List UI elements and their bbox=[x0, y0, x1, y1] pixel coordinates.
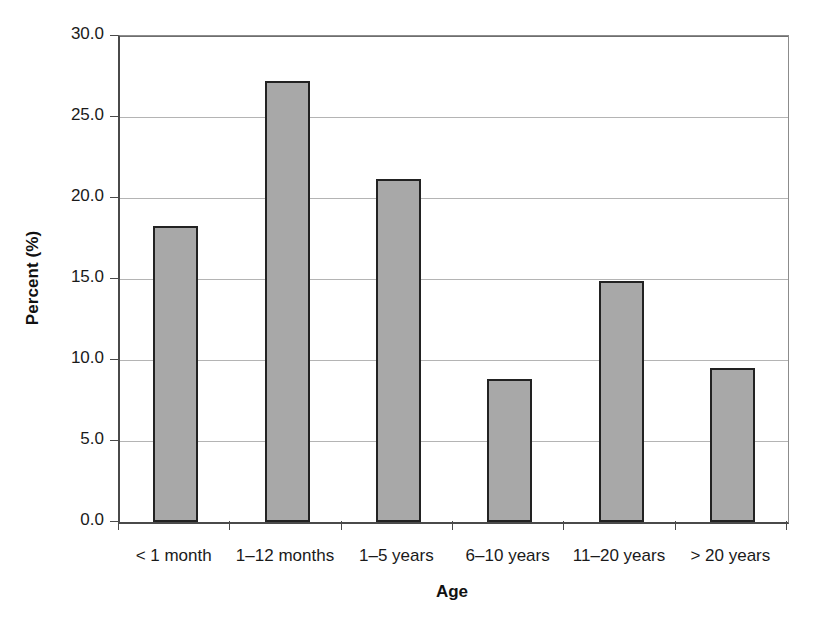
plot-area bbox=[118, 35, 789, 524]
x-axis-tick-label: < 1 month bbox=[118, 546, 229, 566]
y-axis-tick-label: 20.0 bbox=[42, 186, 104, 206]
y-axis-tick-mark bbox=[110, 116, 118, 117]
y-axis-tick-mark bbox=[110, 440, 118, 441]
x-axis-title: Age bbox=[118, 582, 786, 602]
y-axis-title: Percent (%) bbox=[22, 35, 44, 521]
x-axis-tick-mark bbox=[229, 521, 230, 530]
x-axis-tick-label: 1–12 months bbox=[229, 546, 340, 566]
x-axis-tick-mark bbox=[563, 521, 564, 530]
x-axis-tick-labels: < 1 month1–12 months1–5 years6–10 years1… bbox=[118, 546, 786, 572]
x-axis-tick-mark bbox=[675, 521, 676, 530]
y-axis-tick-mark bbox=[110, 521, 118, 522]
bar bbox=[710, 368, 755, 522]
x-axis-tick-label: 1–5 years bbox=[341, 546, 452, 566]
bar bbox=[265, 81, 310, 522]
bar bbox=[153, 226, 198, 522]
y-axis-tick-labels: 0.05.010.015.020.025.030.0 bbox=[42, 0, 104, 629]
x-axis-tick-label: 11–20 years bbox=[563, 546, 674, 566]
y-axis-tick-label: 25.0 bbox=[42, 105, 104, 125]
x-axis-tick-mark bbox=[341, 521, 342, 530]
y-axis-tick-mark bbox=[110, 35, 118, 36]
x-axis-tick-mark bbox=[786, 521, 787, 530]
x-axis-tick-label: 6–10 years bbox=[452, 546, 563, 566]
bar bbox=[487, 379, 532, 522]
y-axis-tick-mark bbox=[110, 359, 118, 360]
x-axis-tick-mark bbox=[452, 521, 453, 530]
bar bbox=[376, 179, 421, 522]
y-axis-tick-label: 15.0 bbox=[42, 267, 104, 287]
y-axis-tick-mark bbox=[110, 278, 118, 279]
y-axis-tick-mark bbox=[110, 197, 118, 198]
x-axis-tick-label: > 20 years bbox=[675, 546, 786, 566]
y-axis-tick-label: 10.0 bbox=[42, 348, 104, 368]
x-axis-tick-mark bbox=[118, 521, 119, 530]
bar-series bbox=[120, 36, 788, 522]
y-axis-tick-label: 30.0 bbox=[42, 24, 104, 44]
bar bbox=[599, 281, 644, 522]
y-axis-tick-label: 5.0 bbox=[42, 429, 104, 449]
y-axis-tick-label: 0.0 bbox=[42, 510, 104, 530]
bar-chart-figure: Percent (%) 0.05.010.015.020.025.030.0 <… bbox=[0, 0, 816, 629]
